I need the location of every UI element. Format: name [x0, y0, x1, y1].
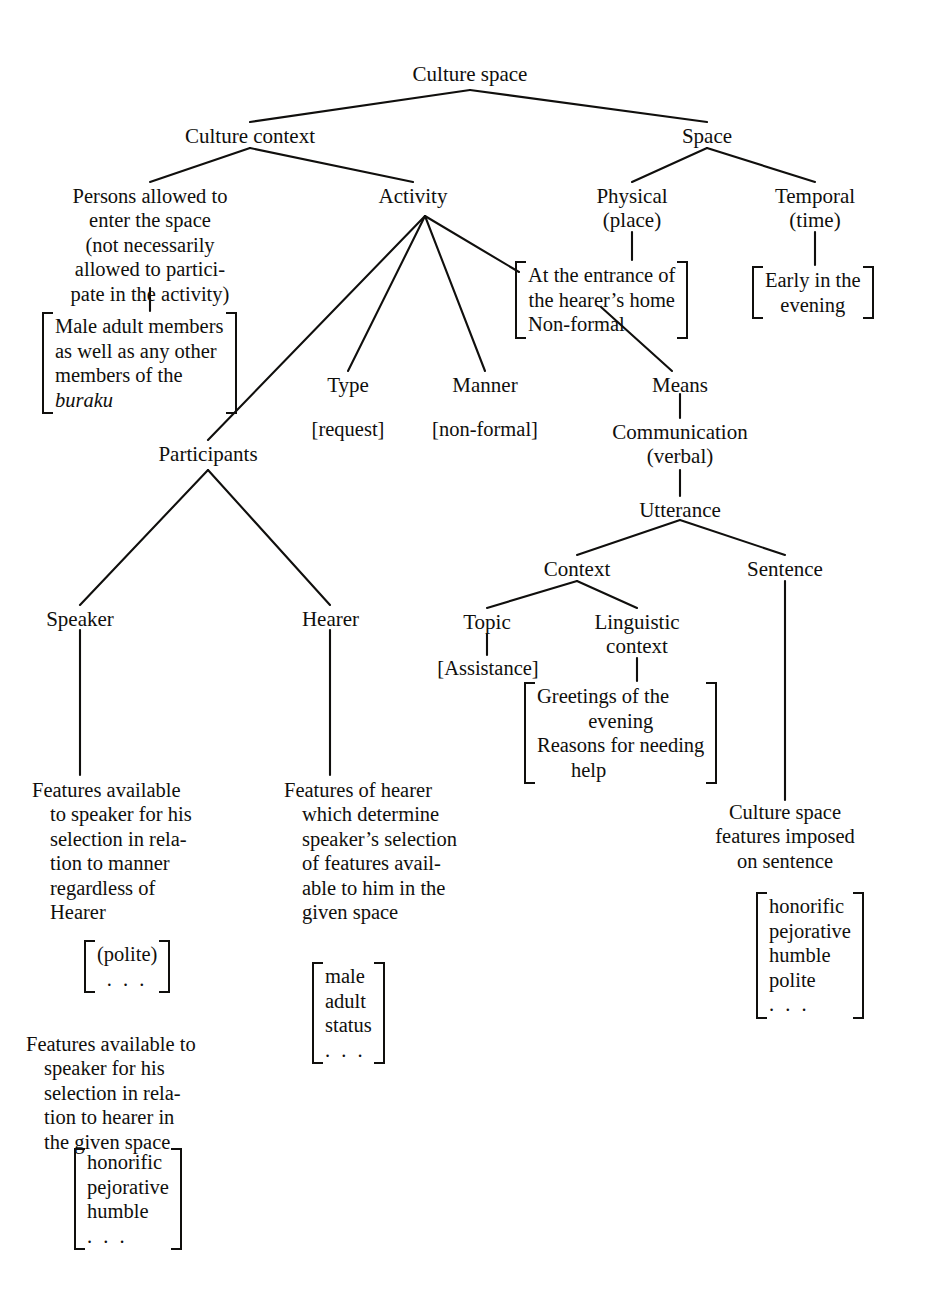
- value-manner-nonformal: [non-formal]: [419, 418, 551, 442]
- matrix-line: humble: [87, 1199, 169, 1224]
- matrix-line: adult: [325, 989, 372, 1014]
- bracket-left: [42, 312, 53, 414]
- bracket-left: [524, 682, 535, 784]
- value-type-request: [request]: [298, 418, 398, 442]
- text-speaker-features-manner: Features available to speaker for his se…: [32, 778, 270, 924]
- matrix-speaker-hearer-features: honorific pejorative humble . . .: [74, 1148, 182, 1250]
- node-space: Space: [647, 124, 767, 148]
- diagram-canvas: Culture space Culture context Space Pers…: [0, 0, 931, 1311]
- matrix-line: members of the: [55, 363, 224, 388]
- matrix-line: pejorative: [769, 919, 851, 944]
- bracket-left: [515, 261, 526, 339]
- bracket-right: [863, 266, 874, 319]
- matrix-line: evening: [537, 709, 704, 734]
- matrix-temporal-features: Early in the evening: [752, 266, 874, 319]
- matrix-line: honorific: [769, 894, 851, 919]
- matrix-line: . . .: [325, 1038, 372, 1063]
- text-hearer-features: Features of hearer which determine speak…: [284, 778, 524, 924]
- node-hearer: Hearer: [278, 607, 383, 631]
- matrix-line: . . .: [87, 1224, 169, 1249]
- bracket-right: [226, 312, 237, 414]
- matrix-lines: At the entrance of the hearer’s home Non…: [515, 261, 688, 339]
- node-activity: Activity: [353, 184, 473, 208]
- node-context: Context: [517, 557, 637, 581]
- matrix-lines: Greetings of the evening Reasons for nee…: [524, 682, 717, 784]
- matrix-line: Greetings of the: [537, 684, 704, 709]
- matrix-line: status: [325, 1013, 372, 1038]
- bracket-right: [159, 940, 170, 993]
- matrix-line: polite: [769, 968, 851, 993]
- matrix-line: pejorative: [87, 1175, 169, 1200]
- matrix-line: Early in the: [765, 268, 861, 293]
- matrix-lines: (polite) . . .: [84, 940, 170, 993]
- node-culture-space: Culture space: [370, 62, 570, 86]
- matrix-line: evening: [765, 293, 861, 318]
- value-topic-assistance: [Assistance]: [424, 657, 552, 681]
- matrix-physical-features: At the entrance of the hearer’s home Non…: [515, 261, 688, 339]
- node-topic: Topic: [437, 610, 537, 634]
- matrix-lines: honorific pejorative humble polite . . .: [756, 892, 864, 1019]
- node-communication: Communication (verbal): [590, 420, 770, 469]
- bracket-left: [74, 1148, 85, 1250]
- node-linguistic-context: Linguistic context: [567, 610, 707, 659]
- matrix-lines: Early in the evening: [752, 266, 874, 319]
- bracket-right: [374, 962, 385, 1064]
- matrix-line: . . .: [97, 967, 157, 992]
- matrix-sentence-features: honorific pejorative humble polite . . .: [756, 892, 864, 1019]
- matrix-speaker-manner-features: (polite) . . .: [84, 940, 170, 993]
- matrix-line: humble: [769, 943, 851, 968]
- bracket-left: [756, 892, 767, 1019]
- bracket-right: [853, 892, 864, 1019]
- node-utterance: Utterance: [615, 498, 745, 522]
- matrix-line: honorific: [87, 1150, 169, 1175]
- node-temporal: Temporal (time): [755, 184, 875, 233]
- matrix-lines: honorific pejorative humble . . .: [74, 1148, 182, 1250]
- node-speaker: Speaker: [25, 607, 135, 631]
- matrix-line: help: [537, 758, 704, 783]
- matrix-line: as well as any other: [55, 339, 224, 364]
- node-culture-context: Culture context: [160, 124, 340, 148]
- node-sentence: Sentence: [722, 557, 848, 581]
- node-type: Type: [298, 373, 398, 397]
- matrix-line: At the entrance of: [528, 263, 675, 288]
- node-physical: Physical (place): [572, 184, 692, 233]
- node-participants: Participants: [133, 442, 283, 466]
- bracket-left: [84, 940, 95, 993]
- node-manner: Manner: [425, 373, 545, 397]
- text-sentence-features: Culture space features imposed on senten…: [672, 800, 898, 873]
- matrix-line: male: [325, 964, 372, 989]
- matrix-line: Non-formal: [528, 312, 675, 337]
- matrix-line: . . .: [769, 992, 851, 1017]
- bracket-right: [677, 261, 688, 339]
- bracket-right: [706, 682, 717, 784]
- matrix-line: Male adult members: [55, 314, 224, 339]
- node-means: Means: [625, 373, 735, 397]
- matrix-hearer-features: male adult status . . .: [312, 962, 385, 1064]
- bracket-left: [312, 962, 323, 1064]
- matrix-lines: Male adult members as well as any other …: [42, 312, 237, 414]
- matrix-persons-features: Male adult members as well as any other …: [42, 312, 237, 414]
- bracket-right: [171, 1148, 182, 1250]
- matrix-line: the hearer’s home: [528, 288, 675, 313]
- matrix-line-italic: buraku: [55, 388, 224, 413]
- node-persons-allowed: Persons allowed to enter the space (not …: [45, 184, 255, 306]
- matrix-line: Reasons for needing: [537, 733, 704, 758]
- text-speaker-features-hearer: Features available to speaker for his se…: [26, 1032, 276, 1154]
- matrix-linguistic-context-features: Greetings of the evening Reasons for nee…: [524, 682, 717, 784]
- bracket-left: [752, 266, 763, 319]
- matrix-line: (polite): [97, 942, 157, 967]
